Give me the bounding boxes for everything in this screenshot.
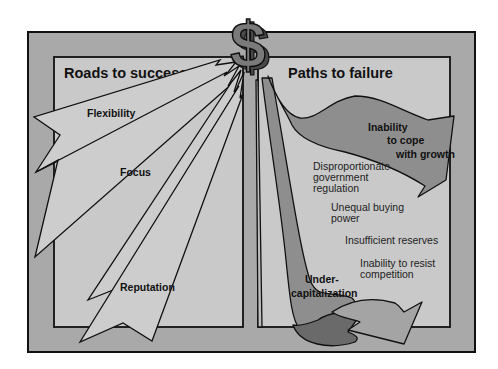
failure-label-growth-line2: to cope — [387, 134, 424, 146]
arrow-label-focus: Focus — [120, 166, 151, 178]
failure-label-reserves: Insufficient reserves — [345, 234, 438, 246]
dollar-face: $ — [230, 9, 266, 81]
failure-label-growth-line3: with growth — [395, 148, 455, 160]
failure-label-undercap-line1: Under- — [305, 273, 339, 285]
failure-label-undercap-line2: capitalization — [291, 287, 358, 299]
success-failure-diagram: Roads to success Paths to failure Flexib… — [0, 0, 498, 369]
arrow-label-flexibility: Flexibility — [87, 107, 136, 119]
arrow-label-reputation: Reputation — [120, 281, 175, 293]
dollar-sign-icon: $ $ — [230, 9, 270, 84]
failure-label-buying-line2: power — [331, 212, 360, 224]
failure-label-competition-line2: competition — [360, 268, 414, 280]
failure-label-growth-line1: Inability — [368, 121, 408, 133]
right-panel-title: Paths to failure — [288, 65, 393, 81]
failure-label-reserves-line1: Insufficient reserves — [345, 234, 438, 246]
failure-label-regulation-line3: regulation — [313, 182, 359, 194]
